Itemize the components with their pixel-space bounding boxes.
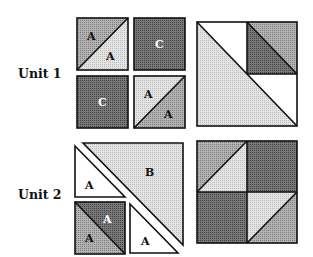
piece-label: A — [140, 235, 150, 248]
piece-label: A — [105, 50, 115, 63]
unit2-hst-bottom: A A — [75, 202, 125, 254]
piece-label: A — [163, 108, 173, 121]
piece-label: C — [98, 96, 107, 109]
piece-label: C — [155, 38, 164, 51]
unit2-assembled-block — [197, 141, 297, 243]
piece-label: A — [143, 88, 153, 101]
unit1-square-bottom-left: C — [77, 76, 128, 128]
piece-label: A — [84, 179, 94, 192]
unit-1-label: Unit 1 — [18, 66, 62, 81]
piece-label: A — [86, 30, 96, 43]
piece-label: A — [102, 213, 112, 226]
unit1-hst-bottom-right: A A — [134, 76, 185, 128]
quilt-diagram: Unit 1 A A C C A A — [0, 0, 313, 257]
unit1-square-top-right: C — [134, 18, 185, 70]
piece-label: B — [145, 166, 154, 179]
unit1-hst-top-left: A A — [77, 18, 128, 70]
piece-label: A — [84, 232, 94, 245]
unit-2-label: Unit 2 — [18, 187, 62, 202]
unit1-assembled-block — [197, 22, 297, 126]
